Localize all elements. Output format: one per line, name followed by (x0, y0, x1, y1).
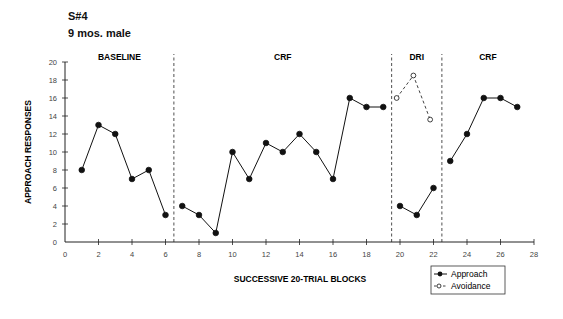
x-tick-label: 10 (228, 250, 236, 259)
x-tick-label: 4 (130, 250, 134, 259)
avoidance-marker-icon (437, 284, 441, 288)
y-tick-label: 14 (49, 112, 57, 121)
y-tick-label: 16 (49, 94, 57, 103)
approach-line (82, 125, 166, 215)
y-tick-label: 2 (53, 220, 57, 229)
legend-avoidance: Avoidance (451, 281, 491, 291)
approach-point (96, 122, 102, 128)
x-tick-label: 14 (295, 250, 303, 259)
approach-point (498, 95, 504, 101)
data-series (79, 73, 520, 236)
approach-point (146, 167, 152, 173)
phase-label: CRF (274, 52, 291, 62)
approach-point (246, 176, 252, 182)
x-tick-label: 28 (530, 250, 538, 259)
x-tick-label: 2 (96, 250, 100, 259)
x-tick-label: 20 (396, 250, 404, 259)
approach-point (163, 212, 169, 218)
approach-point (112, 131, 118, 137)
avoidance-point (394, 96, 399, 101)
avoidance-point (411, 73, 416, 78)
approach-point (364, 104, 370, 110)
x-tick-label: 26 (496, 250, 504, 259)
approach-point (447, 158, 453, 164)
approach-marker-icon (438, 272, 443, 277)
approach-point (313, 149, 319, 155)
axes: 0246810121416182022242628024681012141618… (49, 58, 539, 259)
legend: Approach Avoidance (431, 266, 505, 294)
y-tick-label: 0 (53, 238, 57, 247)
approach-point (213, 230, 219, 236)
x-tick-label: 6 (163, 250, 167, 259)
y-tick-label: 4 (53, 202, 57, 211)
approach-point (397, 203, 403, 209)
approach-point (347, 95, 353, 101)
approach-point (263, 140, 269, 146)
y-tick-label: 20 (49, 58, 57, 67)
approach-point (481, 95, 487, 101)
y-axis-label: APPROACH RESPONSES (23, 100, 33, 204)
approach-point (431, 185, 437, 191)
approach-point (79, 167, 85, 173)
y-tick-label: 12 (49, 130, 57, 139)
y-tick-label: 18 (49, 76, 57, 85)
legend-approach: Approach (451, 269, 488, 279)
phase-separators: BASELINECRFDRICRF (98, 52, 497, 242)
phase-label: BASELINE (98, 52, 141, 62)
x-tick-label: 18 (362, 250, 370, 259)
y-tick-label: 6 (53, 184, 57, 193)
approach-line (450, 98, 517, 161)
y-tick-label: 8 (53, 166, 57, 175)
avoidance-point (428, 117, 433, 122)
x-tick-label: 0 (63, 250, 67, 259)
x-tick-label: 12 (262, 250, 270, 259)
approach-line (182, 98, 383, 233)
approach-point (514, 104, 520, 110)
x-tick-label: 16 (329, 250, 337, 259)
y-tick-label: 10 (49, 148, 57, 157)
x-tick-label: 24 (463, 250, 471, 259)
approach-point (129, 176, 135, 182)
approach-point (280, 149, 286, 155)
approach-point (414, 212, 420, 218)
avoidance-line (397, 76, 431, 120)
line-chart: 0246810121416182022242628024681012141618… (0, 0, 563, 319)
approach-point (330, 176, 336, 182)
x-tick-label: 22 (429, 250, 437, 259)
x-axis-label: SUCCESSIVE 20-TRIAL BLOCKS (234, 274, 367, 284)
approach-point (179, 203, 185, 209)
approach-line (400, 188, 434, 215)
approach-point (230, 149, 236, 155)
phase-label: CRF (479, 52, 496, 62)
approach-point (297, 131, 303, 137)
x-tick-label: 8 (197, 250, 201, 259)
approach-point (196, 212, 202, 218)
phase-label: DRI (409, 52, 424, 62)
approach-point (380, 104, 386, 110)
approach-point (464, 131, 470, 137)
